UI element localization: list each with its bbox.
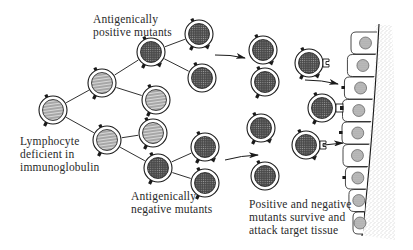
nucleus	[146, 90, 167, 111]
antigen-marker-icon	[341, 86, 345, 89]
lymphocyte-survivor-3	[247, 113, 275, 144]
nucleus	[43, 100, 64, 121]
nucleus	[148, 158, 169, 179]
nucleus	[97, 130, 118, 151]
nucleus	[253, 40, 274, 61]
lymphocyte-gen2-upper-striped	[142, 85, 170, 116]
receptor-icon	[314, 120, 316, 124]
tissue-nucleus	[355, 82, 367, 94]
receptor-icon	[150, 180, 152, 184]
nucleus	[141, 42, 162, 63]
antigen-marker-icon	[342, 176, 346, 179]
tissue-nucleus	[352, 172, 364, 184]
arrow-icon	[225, 155, 258, 160]
tissue-nucleus	[360, 37, 372, 49]
lymphocyte-attacker-3	[292, 130, 326, 161]
tissue-nucleus	[353, 195, 365, 207]
arrow-icon	[215, 55, 245, 58]
receptor-icon	[94, 95, 96, 99]
receptor-icon	[302, 48, 303, 51]
nucleus	[255, 72, 276, 93]
nucleus	[255, 166, 276, 187]
receptor-icon	[146, 118, 147, 121]
diagram-canvas: Antigenically positive mutants Lymphocyt…	[0, 0, 413, 250]
antigen-marker-icon	[339, 131, 343, 134]
receptor-icon	[258, 161, 259, 164]
lymphocyte-gen3-neg-a	[191, 132, 219, 163]
label-negative-mutants: Antigenically negative mutants	[131, 190, 212, 216]
lymphocyte-survivor-4	[251, 161, 279, 190]
lymphocyte-gen2-negative	[144, 153, 172, 184]
lymphocyte-survivor-1	[249, 35, 277, 66]
lineage-line	[165, 39, 185, 46]
tissue-nucleus	[353, 105, 365, 117]
lymphocyte-attacker-1	[295, 48, 329, 79]
lineage-line	[116, 88, 141, 96]
lineage-line	[164, 59, 188, 71]
receptor-icon	[254, 113, 255, 116]
receptor-icon	[143, 64, 145, 68]
nucleus	[189, 24, 210, 45]
nucleus	[296, 135, 317, 156]
receptor-icon	[95, 68, 96, 71]
receptor-icon	[100, 125, 101, 128]
lymphocyte-gen2-positive	[137, 37, 165, 68]
nucleus	[195, 137, 216, 158]
receptor-icon	[148, 112, 150, 116]
lineage-line	[66, 90, 89, 103]
tissue-nucleus	[354, 217, 366, 229]
cup-receptor-icon	[323, 59, 329, 67]
receptor-icon	[195, 63, 196, 66]
receptor-icon	[191, 46, 193, 50]
receptor-icon	[301, 75, 303, 79]
lymphocyte-attacker-2	[308, 93, 344, 124]
receptor-icon	[151, 153, 152, 156]
label-outcome: Positive and negative mutants survive an…	[249, 198, 352, 237]
lineage-line	[66, 117, 94, 132]
receptor-icon	[256, 35, 257, 38]
lineage-line	[172, 173, 190, 179]
label-positive-mutants: Antigenically positive mutants	[93, 13, 172, 39]
receptor-icon	[192, 19, 193, 22]
lymphocyte-gen1-upper	[88, 68, 116, 99]
nucleus	[251, 118, 272, 139]
tissue-nucleus	[352, 127, 364, 139]
receptor-icon	[149, 85, 150, 88]
receptor-icon	[258, 67, 259, 70]
lymphocyte-survivor-2	[251, 67, 279, 98]
nucleus	[143, 123, 164, 144]
arrow-icon	[305, 80, 338, 84]
lymphocyte-gen3-pos-a	[185, 19, 213, 50]
receptor-icon	[45, 122, 47, 126]
receptor-icon	[315, 93, 316, 96]
tissue-nucleus	[357, 60, 369, 72]
lymphocyte-gen2-lower-striped	[139, 118, 167, 149]
receptor-icon	[253, 140, 255, 144]
lineage-line	[172, 153, 192, 162]
nucleus	[299, 53, 320, 74]
nucleus	[312, 98, 333, 119]
receptor-icon	[198, 168, 199, 171]
lymphocyte-origin	[39, 95, 67, 126]
nucleus	[192, 68, 213, 89]
receptor-icon	[197, 159, 199, 163]
lineage-line	[122, 135, 138, 137]
label-origin-lymphocyte: Lymphocyte deficient in immunoglobulin	[20, 135, 99, 174]
receptor-icon	[257, 94, 259, 98]
tissue-nucleus	[351, 150, 363, 162]
lymphocyte-gen3-pos-b	[188, 63, 216, 92]
receptor-icon	[299, 130, 300, 133]
receptor-icon	[46, 95, 47, 98]
lineage-line	[115, 60, 139, 75]
lineage-line	[120, 147, 145, 161]
nucleus	[92, 73, 113, 94]
receptor-icon	[145, 145, 147, 149]
receptor-icon	[198, 132, 199, 135]
